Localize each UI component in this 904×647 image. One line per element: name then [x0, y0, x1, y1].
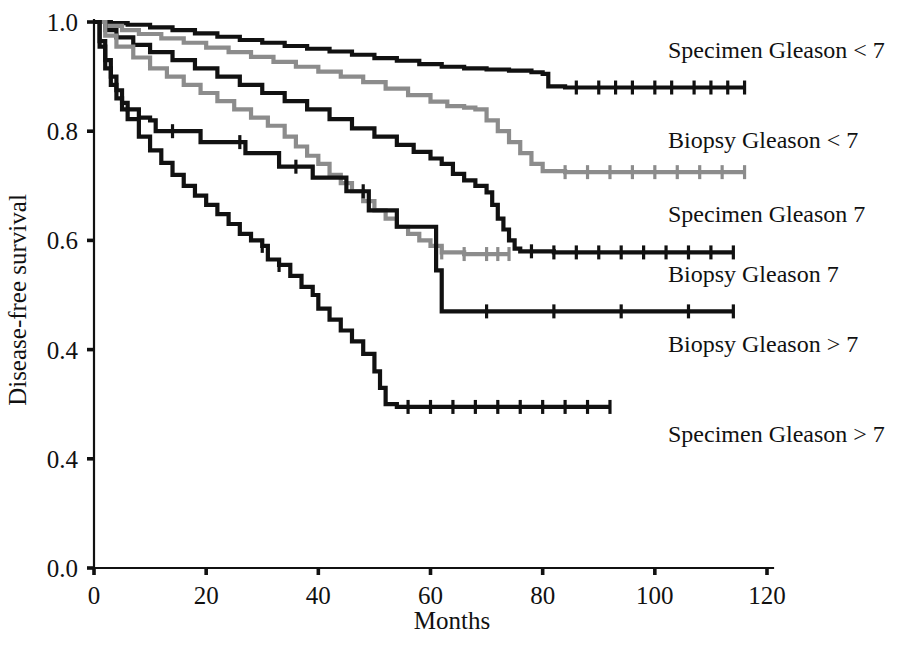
survival-curve-3 — [94, 22, 509, 254]
y-tick-label: 0.4 — [47, 446, 79, 473]
x-tick-label: 120 — [748, 582, 786, 609]
x-axis-tick-labels: 020406080100120 — [88, 582, 786, 609]
series-label-0: Specimen Gleason < 7 — [668, 37, 885, 63]
x-tick-label: 20 — [194, 582, 219, 609]
survival-curve-2 — [94, 22, 733, 252]
y-tick-label: 0.4 — [47, 337, 79, 364]
survival-curve-0 — [94, 22, 745, 88]
survival-curve-4 — [94, 22, 733, 311]
series-label-3: Biopsy Gleason 7 — [668, 261, 839, 287]
y-axis-title: Disease-free survival — [4, 194, 31, 406]
survival-curve-5 — [94, 22, 610, 407]
censoring-marks — [173, 81, 745, 414]
x-tick-label: 60 — [418, 582, 443, 609]
survival-chart: 0.00.40.40.60.81.0 020406080100120 Speci… — [0, 0, 904, 647]
x-tick-label: 80 — [530, 582, 555, 609]
series-label-1: Biopsy Gleason < 7 — [668, 127, 858, 153]
series-label-4: Biopsy Gleason > 7 — [668, 331, 858, 357]
series-label-5: Specimen Gleason > 7 — [668, 421, 885, 447]
y-tick-label: 1.0 — [47, 9, 78, 36]
x-tick-label: 40 — [306, 582, 331, 609]
survival-curve-1 — [94, 22, 745, 172]
y-tick-label: 0.0 — [47, 555, 78, 582]
x-tick-label: 0 — [88, 582, 101, 609]
x-axis-title: Months — [414, 607, 490, 634]
y-tick-label: 0.8 — [47, 118, 78, 145]
y-tick-label: 0.6 — [47, 227, 78, 254]
y-axis-tick-labels: 0.00.40.40.60.81.0 — [47, 9, 79, 582]
survival-curves — [94, 22, 745, 407]
figure-kaplan-meier-survival: 0.00.40.40.60.81.0 020406080100120 Speci… — [0, 0, 904, 647]
series-labels: Specimen Gleason < 7Biopsy Gleason < 7Sp… — [668, 37, 885, 447]
series-label-2: Specimen Gleason 7 — [668, 201, 865, 227]
x-tick-label: 100 — [636, 582, 674, 609]
